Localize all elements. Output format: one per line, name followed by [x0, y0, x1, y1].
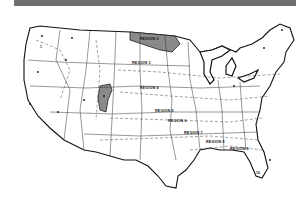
region-10-label: 10 — [256, 171, 260, 175]
region-7-label: REGION 7 — [184, 131, 203, 135]
region-4-label: REGION 4 — [140, 86, 159, 90]
us-region-map: 1 REGION 2 REGION 3 REGION 4 REGION 5 RE… — [0, 8, 308, 204]
region-3-label: REGION 3 — [132, 61, 151, 65]
header-bar — [14, 0, 296, 6]
region-9-label: REGION 9 — [230, 147, 249, 151]
region-8-label: REGION 8 — [206, 140, 225, 144]
region-5-label: REGION 5 — [155, 109, 174, 113]
region-1-label: 1 — [40, 45, 42, 49]
region-6-label: REGION 6 — [168, 119, 187, 123]
region-2-label: REGION 2 — [140, 37, 159, 41]
